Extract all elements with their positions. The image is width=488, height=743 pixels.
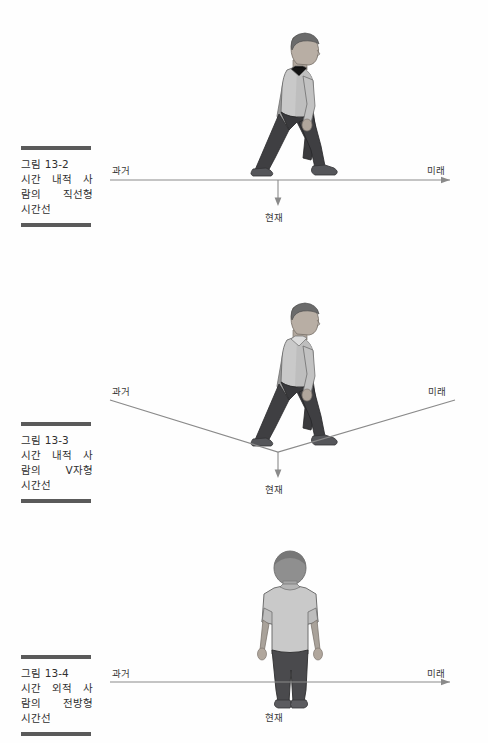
label-present: 현재 [265, 482, 283, 496]
timeline-straight-1 [0, 0, 488, 250]
label-present: 현재 [265, 210, 283, 224]
timeline-straight-2 [0, 530, 488, 743]
label-future: 미래 [427, 163, 445, 177]
figure-13-2: 그림 13-2 시간 내적 사 람의 직선형 시간선 [0, 0, 488, 250]
label-future: 미래 [428, 384, 446, 398]
timeline-v-shaped [0, 260, 488, 510]
figure-13-4: 그림 13-4 시간 외적 사 람의 전방형 시간선 [0, 530, 488, 743]
label-past: 과거 [112, 666, 130, 680]
label-future: 미래 [427, 666, 445, 680]
figure-13-3: 그림 13-3 시간 내적 사 람의 V자형 시간선 [0, 260, 488, 510]
label-past: 과거 [112, 163, 130, 177]
label-past: 과거 [112, 384, 130, 398]
label-present: 현재 [265, 710, 283, 724]
page-canvas: 그림 13-2 시간 내적 사 람의 직선형 시간선 [0, 0, 488, 743]
